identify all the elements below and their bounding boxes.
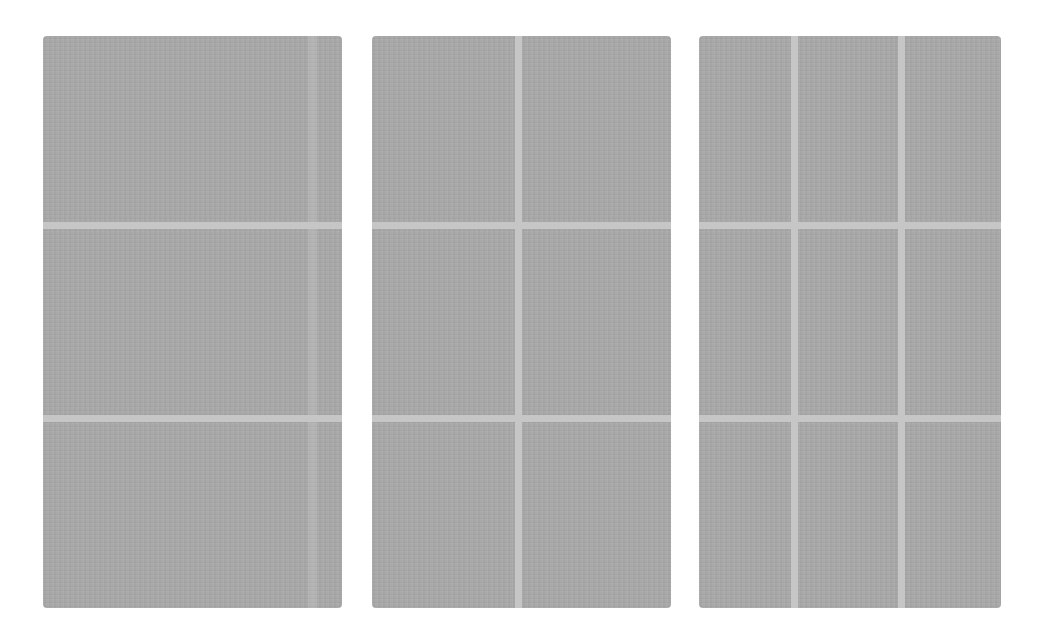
panel-one-column [43, 36, 342, 608]
panel-two-columns [372, 36, 671, 608]
horizontal-divider-1 [43, 222, 342, 229]
horizontal-divider-1 [699, 222, 1001, 229]
vertical-divider-2 [898, 36, 905, 608]
horizontal-divider-2 [699, 415, 1001, 422]
horizontal-divider-1 [372, 222, 671, 229]
panel-three-columns [699, 36, 1001, 608]
horizontal-divider-2 [43, 415, 342, 422]
faint-vertical-divider [308, 36, 317, 608]
vertical-divider-1 [791, 36, 798, 608]
horizontal-divider-2 [372, 415, 671, 422]
vertical-divider-1 [515, 36, 522, 608]
